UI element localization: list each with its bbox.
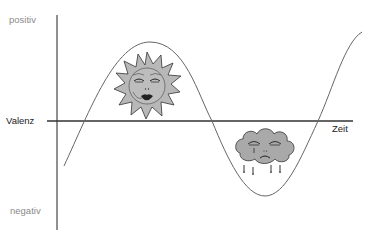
smiling-sun-icon (114, 52, 181, 119)
valence-diagram (0, 0, 372, 236)
crying-cloud-icon (236, 129, 294, 175)
y-axis-title: Valenz (6, 116, 34, 126)
x-axis-title: Zeit (332, 124, 348, 134)
y-axis-positive-label: positiv (9, 15, 36, 25)
valence-curve (64, 32, 362, 196)
y-axis-negative-label: negativ (10, 206, 41, 216)
